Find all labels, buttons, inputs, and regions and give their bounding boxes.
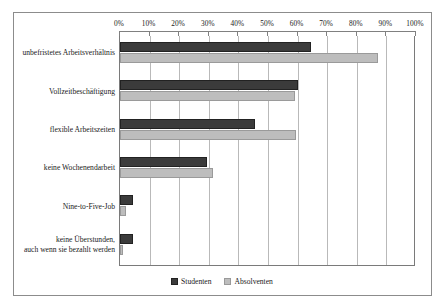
category-axis-labels: unbefristetes ArbeitsverhältnisVollzeitb…	[18, 36, 115, 266]
bar-rows	[120, 36, 414, 265]
bar-group	[120, 228, 414, 266]
category-label: Vollzeitbeschäftigung	[18, 87, 115, 97]
bar-group	[120, 113, 414, 151]
legend: StudentenAbsolventen	[0, 277, 444, 286]
x-tick-mark	[415, 31, 416, 36]
x-tick-label: 0%	[114, 18, 124, 30]
x-tick-label: 100%	[406, 18, 423, 30]
bar-absolventen[interactable]	[120, 53, 378, 63]
bar-studenten[interactable]	[120, 80, 298, 90]
plot-area	[119, 36, 415, 266]
bar-studenten[interactable]	[120, 42, 311, 52]
bar-group	[120, 36, 414, 74]
legend-item-absolventen[interactable]: Absolventen	[224, 277, 272, 286]
legend-swatch-icon	[171, 278, 178, 285]
bar-absolventen[interactable]	[120, 130, 296, 140]
bar-absolventen[interactable]	[120, 206, 126, 216]
bar-group	[120, 189, 414, 227]
bar-absolventen[interactable]	[120, 245, 123, 255]
x-tick-label: 30%	[201, 18, 215, 30]
x-tick-label: 70%	[319, 18, 333, 30]
category-label: Nine-to-Five-Job	[18, 202, 115, 212]
bar-studenten[interactable]	[120, 119, 255, 129]
x-tick-label: 90%	[379, 18, 393, 30]
bar-absolventen[interactable]	[120, 91, 295, 101]
bar-studenten[interactable]	[120, 234, 133, 244]
category-label: keine Überstunden, auch wenn sie bezahlt…	[18, 235, 115, 254]
bar-group	[120, 74, 414, 112]
x-tick-label: 10%	[142, 18, 156, 30]
legend-label: Studenten	[181, 277, 211, 286]
x-tick-label: 20%	[171, 18, 185, 30]
legend-label: Absolventen	[234, 277, 272, 286]
x-tick-label: 80%	[349, 18, 363, 30]
legend-swatch-icon	[224, 278, 231, 285]
x-tick-label: 50%	[260, 18, 274, 30]
legend-item-studenten[interactable]: Studenten	[171, 277, 211, 286]
category-label: flexible Arbeitszeiten	[18, 125, 115, 135]
category-label: unbefristetes Arbeitsverhältnis	[18, 48, 115, 58]
bar-studenten[interactable]	[120, 157, 207, 167]
bar-group	[120, 151, 414, 189]
category-label: keine Wochenendarbeit	[18, 163, 115, 173]
bar-studenten[interactable]	[120, 195, 133, 205]
x-axis-tick-labels: 0%10%20%30%40%50%60%70%80%90%100%	[119, 18, 415, 30]
bar-absolventen[interactable]	[120, 168, 213, 178]
x-tick-label: 60%	[290, 18, 304, 30]
x-tick-label: 40%	[231, 18, 245, 30]
